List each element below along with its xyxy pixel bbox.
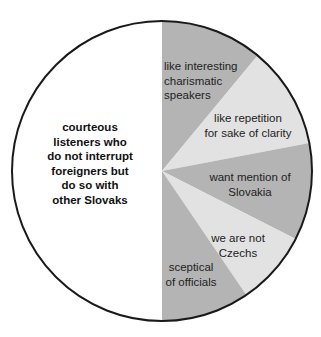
pie-chart: like interestingcharismaticspeakerslike … — [0, 0, 321, 337]
